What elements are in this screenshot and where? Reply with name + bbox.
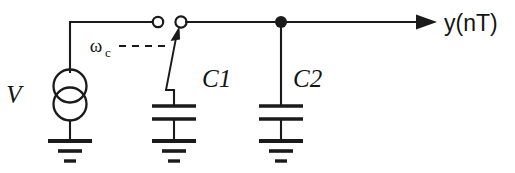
ground-symbol-source <box>48 141 92 161</box>
switch-symbol[interactable] <box>153 16 187 90</box>
output-label: y(nT) <box>444 10 498 36</box>
ground-symbol-c1 <box>152 141 196 161</box>
capacitor-c2-label: C2 <box>293 65 322 92</box>
clock-label: ω <box>90 35 103 56</box>
capacitor-c1-label: C1 <box>202 65 231 92</box>
output-rail-wire <box>186 15 437 30</box>
circuit-diagram-figure: V ω c C1 C2 y(nT) <box>0 0 515 173</box>
clock-subscript-label: c <box>105 45 111 60</box>
switch-terminal-left-icon[interactable] <box>153 17 163 27</box>
capacitor-c1-branch <box>152 90 196 141</box>
source-circle-lower <box>54 88 87 121</box>
switch-arrow-icon <box>171 26 181 41</box>
circuit-schematic-canvas: V ω c C1 C2 y(nT) <box>0 0 515 173</box>
source-circle-upper <box>54 70 87 103</box>
source-label: V <box>6 81 24 108</box>
wire-source-to-switch <box>70 22 153 72</box>
source-branch-wire <box>70 22 153 72</box>
switch-terminal-right-icon[interactable] <box>175 16 186 27</box>
wire-switch-to-c1 <box>166 90 174 106</box>
voltage-source-symbol <box>54 70 87 142</box>
ground-symbol-c2 <box>259 141 303 161</box>
output-arrow-icon <box>416 15 437 30</box>
switch-arm[interactable] <box>166 38 176 90</box>
